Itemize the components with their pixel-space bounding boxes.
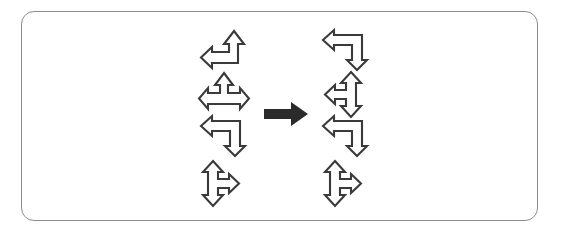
figure-canvas — [0, 0, 568, 232]
right-arrow-up-down-right-tee — [318, 158, 374, 208]
right-arrow-left-down-elbow-2 — [318, 113, 374, 159]
shape-columns — [0, 0, 568, 232]
left-arrow-up-down-right-tee — [196, 158, 252, 208]
right-arrow-left-down-elbow — [318, 27, 374, 73]
left-arrow-up-left-elbow — [196, 27, 252, 71]
left-arrow-left-down-elbow — [196, 113, 252, 159]
rightwards-arrow-icon — [264, 100, 310, 132]
left-arrow-left-right-up-tee — [196, 70, 252, 112]
